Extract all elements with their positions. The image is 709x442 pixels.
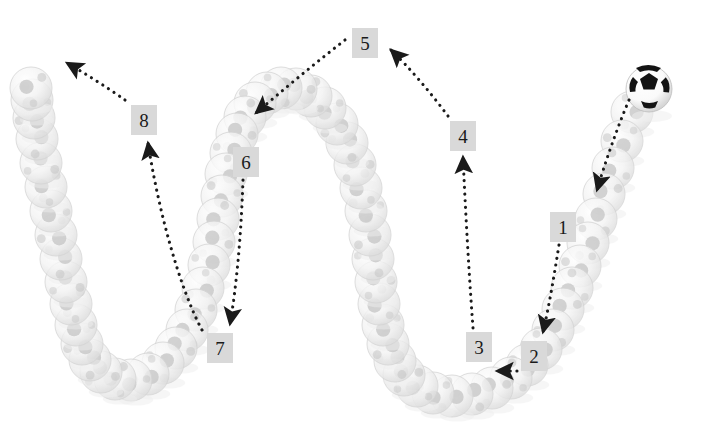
step-label-6[interactable]: 6 — [233, 147, 259, 177]
arrow-8-exit — [67, 63, 125, 100]
step-label-8[interactable]: 8 — [131, 105, 157, 135]
step-label-2[interactable]: 2 — [521, 341, 547, 371]
ball-trail-group — [10, 67, 654, 422]
step-label-7[interactable]: 7 — [207, 333, 233, 363]
step-label-1[interactable]: 1 — [550, 212, 576, 242]
step-label-3[interactable]: 3 — [466, 332, 492, 362]
step-label-5[interactable]: 5 — [352, 28, 378, 58]
arrow-4-to-5 — [391, 50, 448, 116]
step-label-4[interactable]: 4 — [450, 121, 476, 151]
trajectory-canvas — [0, 0, 709, 442]
arrow-3-to-4 — [463, 157, 473, 328]
trajectory-figure: 1 2 3 4 5 6 7 8 — [0, 0, 709, 442]
